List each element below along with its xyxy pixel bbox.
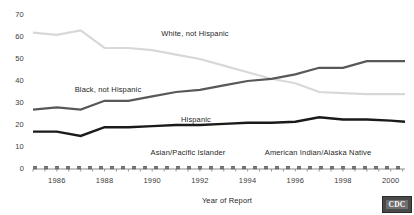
y-axis-tick-label: 70 (2, 10, 24, 19)
series-label: Asian/Pacific Islander (118, 148, 258, 157)
series-label: White, not Hispanic (125, 29, 265, 38)
x-axis-title: Year of Report (187, 196, 267, 205)
x-axis-tick-label: 1992 (180, 176, 220, 185)
y-axis-tick-label: 0 (2, 164, 24, 173)
x-axis-tick-label: 2000 (371, 176, 411, 185)
x-axis-tick-label: 1986 (37, 176, 77, 185)
x-axis-tick-label: 1990 (132, 176, 172, 185)
x-axis-tick-label: 1994 (228, 176, 268, 185)
y-axis-tick-label: 40 (2, 76, 24, 85)
y-axis-tick-label: 20 (2, 120, 24, 129)
x-axis-tick-label: 1998 (323, 176, 363, 185)
cdc-logo: CDC (382, 196, 412, 213)
x-axis-tick-label: 1988 (85, 176, 125, 185)
y-axis-tick-label: 30 (2, 98, 24, 107)
series-label: Hispanic (126, 115, 266, 124)
chart-container: 010203040506070 198619881990199219941996… (0, 0, 414, 215)
series-label: American Indian/Alaska Native (248, 148, 388, 157)
y-axis-tick-label: 60 (2, 32, 24, 41)
x-axis-tick-label: 1996 (275, 176, 315, 185)
y-axis-tick-label: 50 (2, 54, 24, 63)
cdc-logo-text: CDC (386, 200, 407, 209)
y-axis-tick-label: 10 (2, 142, 24, 151)
series-label: Black, not Hispanic (38, 85, 178, 94)
